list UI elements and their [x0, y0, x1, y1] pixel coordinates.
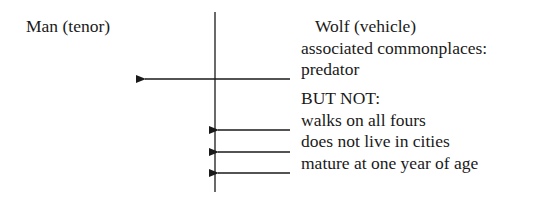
vehicle-label: Wolf (vehicle) [315, 16, 416, 37]
excluded-item: mature at one year of age [301, 153, 478, 174]
excluded-item: does not live in cities [301, 131, 450, 152]
associated-item: predator [301, 59, 359, 80]
exclusion-header: BUT NOT: [301, 88, 380, 109]
associated-header: associated commonplaces: [301, 38, 487, 59]
excluded-item: walks on all fours [301, 110, 426, 131]
tenor-label: Man (tenor) [26, 16, 110, 37]
